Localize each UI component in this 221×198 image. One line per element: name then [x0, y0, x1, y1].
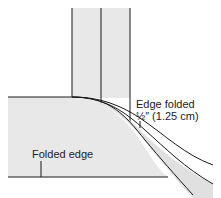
folded-edge-label: Folded edge [32, 148, 93, 160]
edge-folded-measure-label: ½″ (1.25 cm) [136, 110, 199, 122]
hem-fold-diagram: Edge folded ½″ (1.25 cm) Folded edge [0, 0, 221, 198]
edge-folded-label: Edge folded [136, 98, 195, 110]
